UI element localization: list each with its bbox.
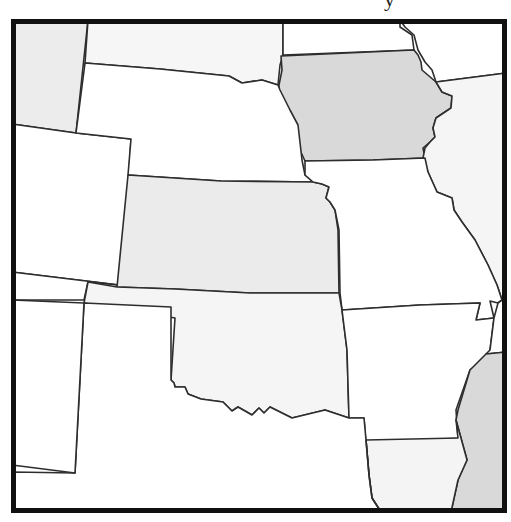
state-iowa[interactable] <box>279 50 452 161</box>
state-kansas[interactable] <box>117 175 339 293</box>
state-montana[interactable] <box>12 20 88 133</box>
us-map <box>0 0 511 522</box>
state-wyoming[interactable] <box>12 124 131 285</box>
state-minnesota[interactable] <box>283 20 414 55</box>
state-arizona[interactable] <box>12 300 84 473</box>
